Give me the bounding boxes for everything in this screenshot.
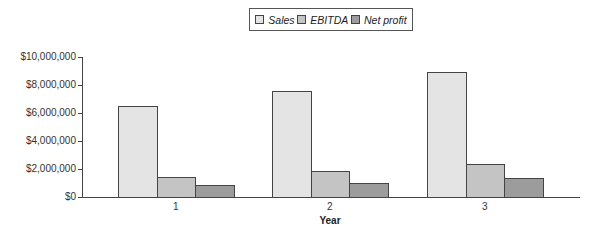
y-tick xyxy=(78,141,83,142)
y-tick xyxy=(78,197,83,198)
bar-sales-year-1 xyxy=(118,106,158,198)
y-tick-label: $0 xyxy=(0,192,76,202)
y-tick-label: $10,000,000 xyxy=(0,52,76,62)
bar-net-profit-year-3 xyxy=(504,178,544,198)
y-tick xyxy=(78,113,83,114)
x-tick-label: 2 xyxy=(320,201,340,212)
bar-sales-year-2 xyxy=(272,91,312,198)
x-tick-label: 1 xyxy=(166,201,186,212)
y-tick xyxy=(78,169,83,170)
y-tick xyxy=(78,57,83,58)
y-axis xyxy=(82,57,83,198)
y-tick-label: $8,000,000 xyxy=(0,80,76,90)
plot-area: $0$2,000,000$4,000,000$6,000,000$8,000,0… xyxy=(0,0,610,242)
y-tick-label: $4,000,000 xyxy=(0,136,76,146)
bar-ebitda-year-1 xyxy=(157,177,197,198)
y-tick-label: $6,000,000 xyxy=(0,108,76,118)
y-tick-label: $2,000,000 xyxy=(0,164,76,174)
x-axis-title: Year xyxy=(300,215,360,226)
bar-ebitda-year-2 xyxy=(311,171,351,198)
bar-sales-year-3 xyxy=(427,72,467,198)
bar-net-profit-year-1 xyxy=(195,185,235,198)
bar-net-profit-year-2 xyxy=(349,183,389,198)
y-tick xyxy=(78,85,83,86)
bar-ebitda-year-3 xyxy=(466,164,506,198)
x-tick-label: 3 xyxy=(475,201,495,212)
